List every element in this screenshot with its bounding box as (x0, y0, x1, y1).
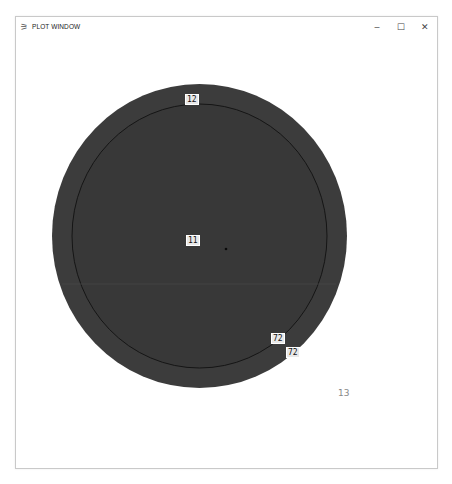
plot-canvas[interactable] (0, 0, 452, 484)
center-marker (225, 248, 228, 251)
region-label-12: 12 (185, 94, 199, 105)
region-label-13: 13 (338, 388, 349, 398)
region-label-72a: 72 (271, 333, 285, 344)
region-label-11: 11 (186, 235, 200, 246)
region-label-72b: 72 (286, 347, 300, 358)
